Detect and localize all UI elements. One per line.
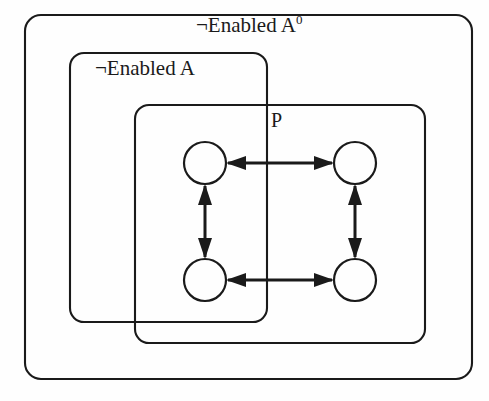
node-top-right[interactable] [334,142,376,184]
arrowhead-down-left [198,238,212,259]
edge-left-vertical [198,184,212,259]
diagram-canvas: ¬Enabled A0 ¬Enabled A P [0,0,489,401]
region-label-inner: P [271,110,282,130]
arrowhead-up-left [198,184,212,205]
arrowhead-down-right [348,238,362,259]
node-top-left[interactable] [184,142,226,184]
region-label-middle-text: ¬Enabled A [95,56,195,80]
region-label-middle: ¬Enabled A [95,58,195,79]
node-bottom-left[interactable] [184,259,226,301]
edge-bottom-horizontal [226,273,334,287]
region-label-outer-superscript: 0 [296,12,303,27]
edge-top-horizontal [226,156,334,170]
arrowhead-right-top [314,156,334,170]
arrowhead-up-right [348,184,362,205]
arrowhead-left-bottom [226,273,246,287]
region-inner-p [135,105,425,343]
arrowhead-right-bottom [314,273,334,287]
diagram-graphics [0,0,489,401]
region-label-inner-text: P [271,109,282,131]
node-layer [184,142,376,301]
region-label-outer: ¬Enabled A0 [196,15,302,36]
edge-right-vertical [348,184,362,259]
node-bottom-right[interactable] [334,259,376,301]
region-label-outer-text: ¬Enabled A [196,13,296,37]
arrowhead-left-top [226,156,246,170]
